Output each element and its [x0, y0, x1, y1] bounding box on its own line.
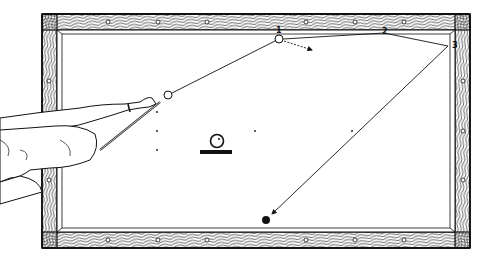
- rail-label-1: 1: [276, 26, 282, 35]
- billiard-diagram: 1 2 3: [0, 0, 494, 261]
- table-cushion: [57, 30, 455, 232]
- object-ball: [275, 35, 283, 43]
- cue-ball: [164, 91, 172, 99]
- target-ball: [262, 216, 270, 224]
- rail-label-3: 3: [452, 41, 458, 50]
- rail-label-2: 2: [382, 27, 388, 36]
